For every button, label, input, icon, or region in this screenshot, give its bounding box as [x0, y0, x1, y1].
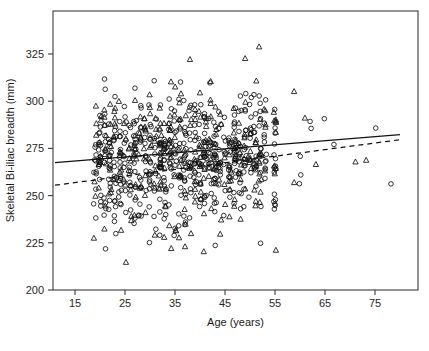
- data-point-circle: [128, 208, 133, 213]
- data-point-triangle: [169, 246, 174, 251]
- data-point-circle: [116, 195, 121, 200]
- data-point-triangle: [157, 126, 162, 131]
- data-point-circle: [249, 170, 254, 175]
- y-axis-title: Skeletal Bi-iliac breadth (mm): [4, 79, 16, 223]
- data-point-circle: [102, 196, 107, 201]
- data-point-circle: [158, 210, 163, 215]
- data-point-triangle: [188, 231, 193, 236]
- data-point-circle: [167, 97, 172, 102]
- data-point-circle: [221, 213, 226, 218]
- data-point-circle: [179, 193, 184, 198]
- data-point-circle: [118, 160, 123, 165]
- data-point-circle: [103, 247, 108, 252]
- data-point-triangle: [94, 121, 99, 126]
- data-point-triangle: [193, 193, 198, 198]
- data-point-circle: [172, 119, 177, 124]
- data-point-triangle: [138, 114, 143, 119]
- data-point-circle: [258, 101, 263, 106]
- data-point-triangle: [227, 214, 232, 219]
- x-tick-label: 45: [219, 297, 231, 309]
- data-point-triangle: [112, 108, 117, 113]
- data-point-triangle: [254, 78, 259, 83]
- data-point-triangle: [206, 173, 211, 178]
- data-point-triangle: [292, 180, 297, 185]
- data-point-triangle: [147, 144, 152, 149]
- data-point-triangle: [157, 105, 162, 110]
- data-point-circle: [178, 80, 183, 85]
- data-point-circle: [257, 124, 262, 129]
- scatter-plot-figure: 15253545556575200225250275300325Age (yea…: [0, 0, 429, 351]
- data-point-circle: [332, 142, 337, 147]
- data-point-triangle: [291, 89, 296, 94]
- data-point-triangle: [223, 202, 228, 207]
- data-point-triangle: [93, 103, 98, 108]
- data-point-triangle: [197, 90, 202, 95]
- data-point-circle: [123, 115, 128, 120]
- data-point-circle: [91, 202, 96, 207]
- data-point-circle: [309, 126, 314, 131]
- data-point-triangle: [116, 98, 121, 103]
- x-axis-title: Age (years): [207, 316, 264, 328]
- x-tick-label: 55: [269, 297, 281, 309]
- data-point-circle: [198, 102, 203, 107]
- data-point-circle: [112, 219, 117, 224]
- data-point-layer: [91, 44, 393, 264]
- data-point-triangle: [192, 199, 197, 204]
- data-point-circle: [202, 131, 207, 136]
- data-point-circle: [181, 98, 186, 103]
- data-point-triangle: [256, 44, 261, 49]
- data-point-triangle: [176, 235, 181, 240]
- data-point-circle: [228, 195, 233, 200]
- y-tick-label: 325: [26, 48, 44, 60]
- data-point-triangle: [213, 104, 218, 109]
- data-point-triangle: [302, 115, 307, 120]
- data-point-circle: [188, 137, 193, 142]
- data-point-circle: [308, 119, 313, 124]
- data-point-circle: [102, 213, 107, 218]
- data-point-circle: [123, 130, 128, 135]
- data-point-circle: [154, 227, 159, 232]
- data-point-circle: [94, 216, 99, 221]
- data-point-circle: [258, 241, 263, 246]
- data-point-triangle: [172, 135, 177, 140]
- x-tick-label: 75: [369, 297, 381, 309]
- data-point-triangle: [248, 148, 253, 153]
- data-point-circle: [172, 233, 177, 238]
- y-tick-label: 250: [26, 190, 44, 202]
- data-point-circle: [202, 201, 207, 206]
- data-point-circle: [178, 185, 183, 190]
- data-point-circle: [122, 104, 127, 109]
- data-point-circle: [173, 130, 178, 135]
- data-point-circle: [96, 148, 101, 153]
- data-point-triangle: [187, 57, 192, 62]
- data-point-circle: [297, 181, 302, 186]
- data-point-triangle: [107, 101, 112, 106]
- data-point-triangle: [218, 231, 223, 236]
- data-point-triangle: [167, 113, 172, 118]
- data-point-triangle: [201, 175, 206, 180]
- data-point-circle: [197, 122, 202, 127]
- data-point-circle: [147, 240, 152, 245]
- data-point-circle: [112, 214, 117, 219]
- data-point-circle: [272, 142, 277, 147]
- data-point-triangle: [252, 187, 257, 192]
- data-point-circle: [169, 184, 174, 189]
- data-point-circle: [132, 221, 137, 226]
- data-point-triangle: [132, 97, 137, 102]
- data-point-triangle: [133, 194, 138, 199]
- data-point-circle: [249, 95, 254, 100]
- data-point-triangle: [102, 226, 107, 231]
- data-point-circle: [147, 205, 152, 210]
- data-point-triangle: [201, 249, 206, 254]
- data-point-circle: [264, 152, 269, 157]
- data-point-triangle: [313, 162, 318, 167]
- data-point-triangle: [258, 189, 263, 194]
- data-point-circle: [259, 204, 264, 209]
- y-tick-label: 275: [26, 142, 44, 154]
- data-point-triangle: [152, 232, 157, 237]
- y-tick-label: 200: [26, 284, 44, 296]
- data-point-circle: [103, 87, 108, 92]
- data-point-circle: [113, 204, 118, 209]
- data-point-triangle: [273, 247, 278, 252]
- data-point-circle: [123, 210, 128, 215]
